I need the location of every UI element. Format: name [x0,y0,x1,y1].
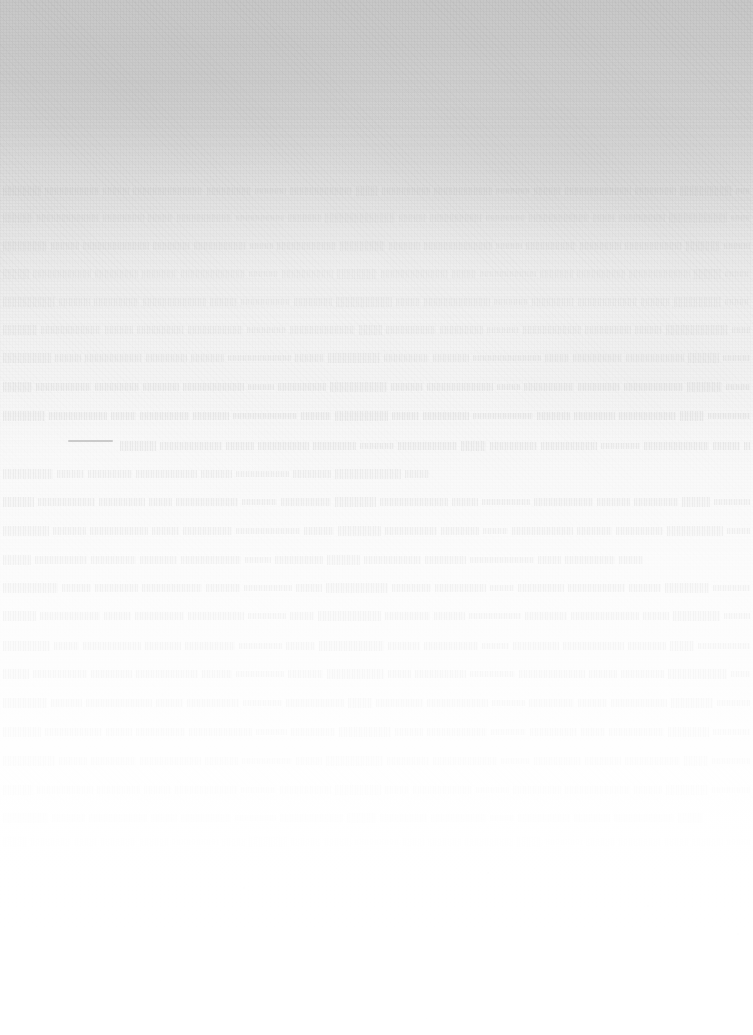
illegible-word-glyph [385,786,409,794]
illegible-word-glyph [151,814,177,822]
illegible-word-glyph [452,498,478,506]
illegible-word-glyph [41,326,101,334]
illegible-word-glyph [3,213,33,223]
illegible-word-glyph [578,298,637,306]
illegible-word-glyph [136,728,185,736]
illegible-word-glyph [619,412,676,420]
illegible-word-glyph [250,243,273,249]
illegible-word-glyph [501,758,530,764]
illegible-body-text-block [0,0,753,1035]
illegible-word-glyph [40,612,100,620]
scan-speck [487,872,489,874]
illegible-text-line [3,640,750,651]
illegible-word-glyph [385,612,430,620]
illegible-word-glyph [288,214,321,222]
illegible-word-glyph [524,383,574,391]
illegible-word-glyph [530,728,577,736]
illegible-word-glyph [319,641,384,651]
illegible-word-glyph [3,269,29,279]
illegible-word-glyph [3,241,47,251]
illegible-word-glyph [37,786,93,794]
illegible-word-glyph [313,442,356,450]
illegible-word-glyph [680,186,732,196]
illegible-word-glyph [258,442,309,450]
illegible-word-glyph [614,814,674,822]
illegible-word-glyph [101,838,136,846]
illegible-word-glyph [37,214,99,222]
illegible-word-glyph [140,412,189,420]
illegible-word-glyph [643,612,669,620]
illegible-word-glyph [249,271,278,277]
illegible-word-glyph [674,297,721,307]
illegible-word-glyph [424,642,478,650]
illegible-word-glyph [461,441,486,451]
illegible-word-glyph [249,837,287,847]
illegible-word-glyph [386,326,436,334]
illegible-word-glyph [3,727,41,737]
illegible-word-glyph [143,298,206,306]
illegible-word-glyph [492,700,525,706]
illegible-word-glyph [248,613,286,619]
illegible-word-glyph [99,498,145,506]
illegible-word-glyph [585,326,631,334]
illegible-word-glyph [644,442,709,450]
illegible-word-glyph [525,612,567,620]
illegible-word-glyph [546,839,582,845]
illegible-word-glyph [38,498,95,506]
illegible-word-glyph [687,382,722,392]
illegible-word-glyph [177,214,232,222]
illegible-word-glyph [435,584,486,592]
illegible-word-glyph [181,814,231,822]
illegible-word-glyph [45,728,102,736]
illegible-word-glyph [597,498,630,506]
illegible-word-glyph [145,642,181,650]
illegible-word-glyph [491,729,526,735]
illegible-word-glyph [335,469,401,479]
illegible-word-glyph [673,611,720,621]
illegible-word-glyph [565,187,631,195]
illegible-word-glyph [175,786,237,794]
illegible-word-glyph [236,671,284,677]
illegible-word-glyph [156,699,183,707]
illegible-word-glyph [526,242,576,250]
illegible-word-glyph [111,412,136,420]
illegible-text-line [3,554,643,565]
illegible-word-glyph [568,584,625,592]
illegible-word-glyph [51,699,82,707]
illegible-word-glyph [629,270,690,278]
illegible-word-glyph [160,442,222,450]
illegible-word-glyph [181,556,241,564]
illegible-word-glyph [470,557,534,563]
illegible-word-glyph [534,187,561,195]
illegible-word-glyph [328,353,380,363]
illegible-word-glyph [441,527,479,535]
illegible-word-glyph [91,556,136,564]
illegible-word-glyph [339,727,391,737]
illegible-word-glyph [242,499,277,505]
illegible-word-glyph [545,354,569,362]
illegible-word-glyph [360,443,394,449]
illegible-word-glyph [486,215,525,221]
illegible-word-glyph [487,327,519,333]
illegible-word-glyph [210,298,237,306]
illegible-word-glyph [694,269,721,279]
illegible-word-glyph [452,270,476,278]
illegible-word-glyph [59,298,90,306]
illegible-word-glyph [382,187,430,195]
illegible-word-glyph [296,584,322,592]
illegible-word-glyph [433,354,469,362]
illegible-word-glyph [388,670,411,678]
illegible-word-glyph [541,442,597,450]
illegible-word-glyph [712,787,750,793]
illegible-word-glyph [517,837,542,847]
illegible-word-glyph [136,470,197,478]
illegible-word-glyph [433,757,497,765]
illegible-word-glyph [337,269,377,279]
illegible-word-glyph [104,612,131,620]
illegible-word-glyph [35,556,87,564]
illegible-word-glyph [91,757,136,765]
illegible-word-glyph [538,556,561,564]
illegible-word-glyph [381,270,448,278]
illegible-word-glyph [641,298,670,306]
illegible-word-glyph [619,838,661,846]
